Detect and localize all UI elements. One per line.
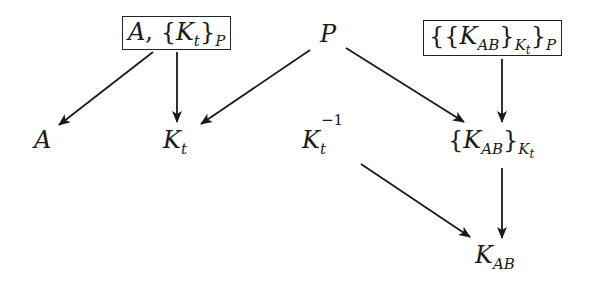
symbol-P: P bbox=[320, 20, 336, 48]
symbol-A: A bbox=[128, 18, 145, 46]
subscript-t: t bbox=[320, 140, 326, 158]
symbol-K: K bbox=[460, 22, 478, 50]
subscript-AB: AB bbox=[478, 36, 500, 54]
right-brace: } bbox=[200, 18, 215, 46]
subscript-K: K bbox=[518, 140, 529, 158]
subscript-AB: AB bbox=[493, 255, 515, 273]
subscript-K: K bbox=[515, 36, 526, 54]
left-brace: { bbox=[448, 126, 463, 154]
subscript-AB: AB bbox=[481, 140, 503, 158]
right-brace-inner: } bbox=[499, 22, 514, 50]
subscript-P: P bbox=[215, 32, 225, 50]
diagram-canvas: A, {Kt}P P {{KAB}Kt}P A Kt K−1t {KAB}Kt … bbox=[0, 0, 611, 283]
symbol-K: K bbox=[302, 126, 320, 154]
symbol-K: K bbox=[463, 126, 481, 154]
node-box-A-Kt-encrypted-P: A, {Kt}P bbox=[122, 16, 231, 50]
symbol-K: K bbox=[176, 18, 194, 46]
edge-P-to-Kt bbox=[201, 50, 310, 124]
left-brace-outer: { bbox=[429, 22, 444, 50]
node-P: P bbox=[320, 22, 336, 46]
right-brace: } bbox=[503, 126, 518, 154]
edge-box1-to-A bbox=[59, 52, 153, 125]
node-KAB-encrypted-Kt: {KAB}Kt bbox=[448, 128, 534, 154]
symbol-A: A bbox=[34, 126, 51, 154]
node-KAB: KAB bbox=[475, 243, 515, 267]
node-Kt: Kt bbox=[163, 128, 187, 152]
edge-KtInv-to-KAB bbox=[361, 164, 470, 237]
subscript-P: P bbox=[546, 36, 556, 54]
left-brace-inner: { bbox=[444, 22, 459, 50]
right-brace-outer: } bbox=[531, 22, 546, 50]
edge-P-to-KABenc bbox=[346, 48, 464, 122]
symbol-K: K bbox=[475, 241, 493, 269]
node-A: A bbox=[34, 128, 51, 152]
symbol-K: K bbox=[163, 126, 181, 154]
subscript-t: t bbox=[181, 140, 187, 158]
node-box-KAB-encrypted-Kt-P: {{KAB}Kt}P bbox=[423, 20, 562, 56]
subscript-t: t bbox=[530, 147, 535, 161]
left-brace: { bbox=[161, 18, 176, 46]
comma: , bbox=[145, 18, 153, 46]
node-Kt-inverse: K−1t bbox=[302, 128, 326, 152]
